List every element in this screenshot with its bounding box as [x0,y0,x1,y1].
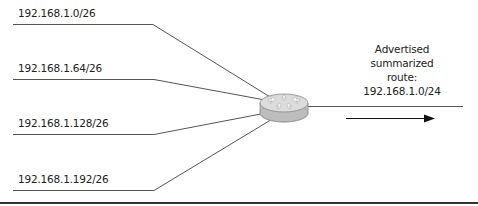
router-icon [260,94,308,122]
subnet-label-2: 192.168.1.64/26 [18,62,102,74]
caption-line-3: route: [352,70,452,84]
caption-line-2: summarized [352,56,452,70]
advertisement-arrow [346,115,435,123]
subnet-label-4: 192.168.1.192/26 [18,173,109,185]
caption-line-4: 192.168.1.0/24 [352,84,452,98]
subnet-link-2 [13,80,265,101]
caption-line-1: Advertised [352,42,452,56]
subnet-label-1: 192.168.1.0/26 [18,7,96,19]
subnet-label-3: 192.168.1.128/26 [18,117,109,129]
advertised-route-caption: Advertised summarized route: 192.168.1.0… [352,42,452,98]
